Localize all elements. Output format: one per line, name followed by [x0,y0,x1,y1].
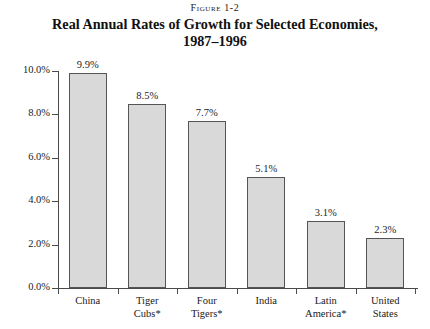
bar-value-label: 7.7% [177,107,237,118]
y-axis-tick-label-wrap: 8.0% [0,107,50,119]
x-axis-label-line: States [350,308,422,321]
y-axis-tick-label: 0.0% [2,281,50,292]
y-axis-tick-label: 8.0% [2,107,50,118]
x-axis-tick [58,288,59,294]
bar-india [247,177,285,288]
x-axis-tick [356,288,357,294]
y-axis-tick [52,201,59,202]
x-axis-label-line: United [350,295,422,308]
x-axis-tick [118,288,119,294]
x-axis-label-line: Tigers* [171,308,243,321]
x-axis-tick [177,288,178,294]
bar-four-tigers [188,121,226,288]
bar-value-label: 8.5% [118,90,178,101]
bar-latin-america [307,221,345,288]
y-axis-tick-label-wrap: 0.0% [0,281,50,293]
bar-value-label: 9.9% [58,59,118,70]
x-axis-tick [237,288,238,294]
y-axis-tick-label: 4.0% [2,194,50,205]
y-axis-line [58,71,59,289]
y-axis-tick [52,114,59,115]
bar-united-states [366,238,404,288]
y-axis-tick-label: 10.0% [2,64,50,75]
bar-value-label: 3.1% [296,207,356,218]
x-axis-tick [415,288,416,294]
y-axis-tick-label-wrap: 2.0% [0,238,50,250]
y-axis-tick-label-wrap: 4.0% [0,194,50,206]
bar-china [69,73,107,288]
bar-value-label: 5.1% [237,163,297,174]
y-axis-tick [52,245,59,246]
y-axis-tick-label-wrap: 6.0% [0,151,50,163]
y-axis-tick [52,71,59,72]
x-axis-tick [296,288,297,294]
y-axis-tick-label: 6.0% [2,151,50,162]
y-axis-tick [52,158,59,159]
y-axis-tick-label-wrap: 10.0% [0,64,50,76]
y-axis-tick-label: 2.0% [2,238,50,249]
bar-tiger-cubs [128,104,166,288]
x-axis-line [58,288,418,289]
x-axis-category-label: UnitedStates [350,295,422,320]
bar-chart: 0.0%2.0%4.0%6.0%8.0%10.0% 9.9%8.5%7.7%5.… [0,0,430,329]
bar-value-label: 2.3% [356,224,416,235]
